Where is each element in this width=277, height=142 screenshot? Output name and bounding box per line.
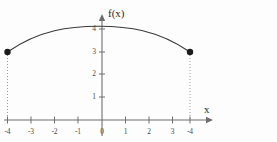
y-tick-label-4: 4 (86, 25, 96, 33)
y-axis-label: f(x) (108, 8, 125, 19)
endpoint-marker-left (4, 49, 10, 55)
x-axis-arrowhead (206, 117, 213, 123)
y-tick-label-3: 3 (86, 48, 96, 56)
x-axis-label: x (204, 104, 210, 115)
y-tick-label-1: 1 (86, 93, 96, 101)
function-graph-figure: -4 -3 -2 -1 0 1 2 3 -4 1 2 3 4 f(x) x (0, 0, 277, 142)
x-tick-label--1: -1 (75, 128, 81, 136)
x-tick-label-0: 0 (100, 128, 104, 136)
x-tick-label-1: 1 (124, 128, 128, 136)
x-tick-label--4: -4 (4, 128, 10, 136)
x-tick-label--3: -3 (28, 128, 34, 136)
y-tick-label-2: 2 (86, 70, 96, 78)
plot-canvas (0, 0, 277, 142)
y-axis-arrowhead (99, 14, 105, 21)
function-curve (8, 26, 191, 52)
x-tick-label-4: -4 (187, 128, 193, 136)
x-tick-label-2: 2 (147, 128, 151, 136)
endpoint-marker-right (187, 49, 193, 55)
x-tick-label--2: -2 (51, 128, 57, 136)
x-tick-label-3: 3 (171, 128, 175, 136)
